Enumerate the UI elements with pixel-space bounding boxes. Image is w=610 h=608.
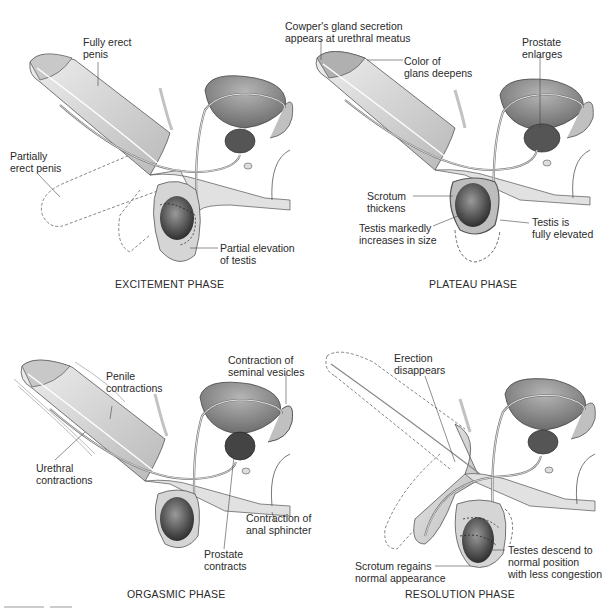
panel-excitement: Fully erectpenis Partiallyerect penis Pa… (0, 0, 305, 300)
title-excitement-phase: EXCITEMENT PHASE (115, 278, 224, 290)
title-orgasmic-phase: ORGASMIC PHASE (127, 588, 225, 600)
label-fully-erect-penis: Fully erectpenis (83, 36, 131, 60)
panel-resolution: Erectiondisappears Scrotum regainsnormal… (305, 304, 610, 604)
label-prostate-enlarges: Prostateenlarges (522, 36, 562, 60)
plateau-illustration (305, 0, 610, 300)
label-cowpers-gland: Cowper's gland secretionappears at ureth… (285, 20, 411, 44)
label-partially-erect-penis: Partiallyerect penis (10, 150, 61, 174)
label-erection-disappears: Erectiondisappears (394, 352, 445, 376)
label-urethral-contractions: Urethralcontractions (36, 462, 93, 486)
label-penile-contractions: Penilecontractions (106, 370, 163, 394)
label-testes-descend: Testes descend tonormal positionwith les… (508, 544, 602, 580)
figure-caption-fragment (4, 598, 124, 604)
label-scrotum-thickens: Scrotumthickens (367, 190, 406, 214)
title-plateau-phase: PLATEAU PHASE (429, 278, 517, 290)
label-anal-sphincter: Contraction ofanal sphincter (246, 512, 311, 536)
panel-plateau: Cowper's gland secretionappears at ureth… (305, 0, 610, 300)
label-testis-elevated: Testis isfully elevated (532, 216, 593, 240)
label-scrotum-normal: Scrotum regainsnormal appearance (355, 560, 445, 584)
label-partial-elevation-testis: Partial elevationof testis (220, 242, 295, 266)
title-resolution-phase: RESOLUTION PHASE (405, 588, 515, 600)
label-seminal-vesicles: Contraction ofseminal vesicles (228, 354, 304, 378)
label-testis-increases: Testis markedlyincreases in size (359, 222, 437, 246)
orgasmic-illustration (0, 304, 305, 608)
label-prostate-contracts: Prostatecontracts (204, 548, 247, 572)
label-glans-color: Color ofglans deepens (404, 55, 472, 79)
panel-orgasmic: Penilecontractions Contraction ofseminal… (0, 304, 305, 604)
